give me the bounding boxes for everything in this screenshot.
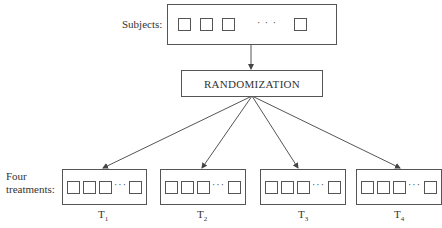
treatment-square [424, 181, 437, 194]
treatment-label-t2: T2 [197, 208, 207, 223]
treatment-ellipsis: ··· [408, 179, 421, 190]
treatment-square [328, 181, 341, 194]
treatments-label-line2: treatments: [6, 183, 55, 195]
treatment-box-t2: ··· [160, 169, 246, 205]
treatment-square [265, 181, 278, 194]
treatment-square [281, 181, 294, 194]
treatment-square [361, 181, 374, 194]
subjects-label: Subjects: [122, 18, 162, 30]
treatment-label-t4: T4 [394, 208, 404, 223]
randomization-box: RANDOMIZATION [181, 70, 323, 97]
randomization-label: RANDOMIZATION [182, 71, 322, 96]
treatment-square [393, 181, 406, 194]
treatment-box-t4: ··· [356, 169, 442, 205]
treatment-square [228, 181, 241, 194]
subjects-ellipsis: · · · [257, 17, 277, 28]
subject-square [200, 18, 213, 31]
treatment-square [67, 181, 80, 194]
treatment-square [99, 181, 112, 194]
treatment-square [181, 181, 194, 194]
subject-square [222, 18, 235, 31]
arrow-to-t2 [202, 96, 252, 168]
subject-square [294, 18, 307, 31]
treatment-ellipsis: ··· [312, 179, 325, 190]
treatment-square [83, 181, 96, 194]
treatment-ellipsis: ··· [212, 179, 225, 190]
arrow-to-t1 [103, 96, 252, 168]
arrow-to-t4 [252, 96, 400, 168]
treatment-box-t1: ··· [62, 169, 147, 205]
treatment-square [377, 181, 390, 194]
subjects-box: · · · [167, 4, 337, 45]
treatments-label-line1: Four [6, 170, 27, 182]
treatment-label-t3: T3 [298, 208, 308, 223]
treatment-label-t1: T1 [98, 208, 108, 223]
treatment-square [129, 181, 142, 194]
treatment-square [165, 181, 178, 194]
treatment-ellipsis: ··· [114, 179, 127, 190]
subject-square [178, 18, 191, 31]
treatment-square [297, 181, 310, 194]
treatment-square [197, 181, 210, 194]
treatment-box-t3: ··· [260, 169, 346, 205]
